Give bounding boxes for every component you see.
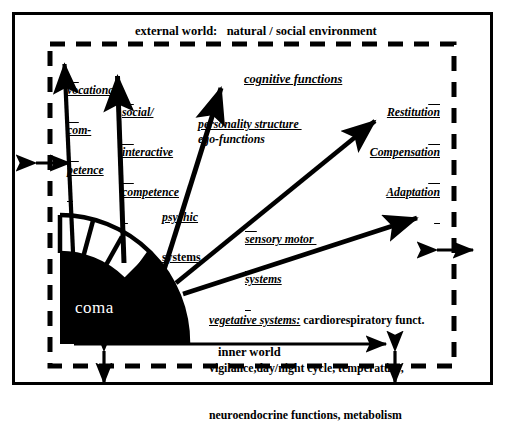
vegetative-line-2: vigilance,day/night cycle, temperature,	[209, 361, 424, 377]
personality-structure-label: personality structure	[198, 118, 302, 131]
cognitive-functions-label: cognitive functions	[244, 72, 342, 86]
vegetative-systems-rest: cardiorespiratory funct.	[300, 313, 424, 327]
coma-label: coma	[75, 298, 114, 318]
vocational-competence-label: vocational com- petence	[67, 58, 117, 203]
outcomes-label: Restitution Compensation Adaptation	[330, 80, 440, 225]
vegetative-systems-block: vegetative systems: cardiorespiratory fu…	[209, 281, 424, 425]
psychic-systems-label: psychic systems	[162, 185, 201, 291]
external-world-label: external world: natural / social environ…	[135, 24, 377, 38]
ego-functions-label: ego-functions	[198, 133, 265, 146]
vegetative-systems-lead: vegetative systems:	[209, 313, 300, 327]
vegetative-line-3: neuroendocrine functions, metabolism	[209, 408, 424, 424]
